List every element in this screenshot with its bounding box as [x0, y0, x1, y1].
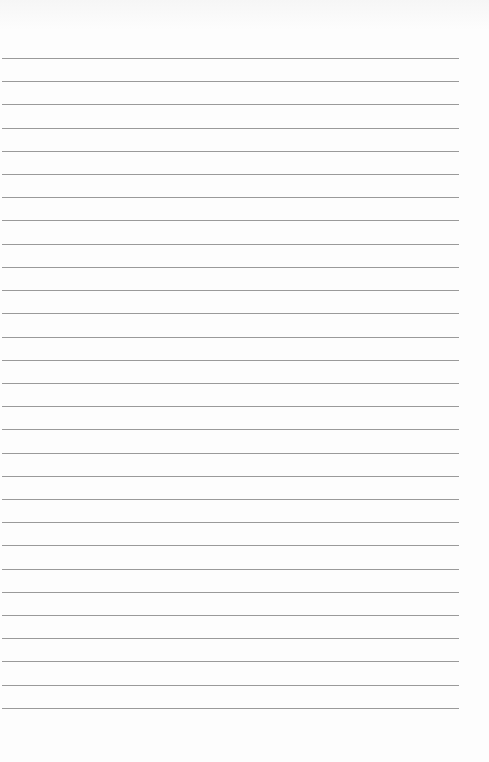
ruled-line	[2, 267, 459, 268]
ruled-line	[2, 220, 459, 221]
ruled-line	[2, 499, 459, 500]
ruled-line	[2, 81, 459, 82]
ruled-line	[2, 522, 459, 523]
ruled-line	[2, 151, 459, 152]
ruled-line	[2, 406, 459, 407]
ruled-line	[2, 638, 459, 639]
ruled-line	[2, 104, 459, 105]
ruled-line	[2, 290, 459, 291]
ruled-line	[2, 569, 459, 570]
lined-paper-page	[0, 0, 489, 762]
ruled-line	[2, 476, 459, 477]
ruled-line	[2, 313, 459, 314]
ruled-line	[2, 197, 459, 198]
ruled-line	[2, 592, 459, 593]
ruled-line	[2, 383, 459, 384]
ruled-line	[2, 661, 459, 662]
ruled-line	[2, 708, 459, 709]
ruled-line	[2, 545, 459, 546]
ruled-line	[2, 453, 459, 454]
ruled-line	[2, 58, 459, 59]
ruled-line	[2, 360, 459, 361]
ruled-line	[2, 429, 459, 430]
ruled-line	[2, 615, 459, 616]
ruled-line	[2, 685, 459, 686]
ruled-line	[2, 337, 459, 338]
ruled-line	[2, 244, 459, 245]
ruled-line	[2, 174, 459, 175]
ruled-line	[2, 128, 459, 129]
